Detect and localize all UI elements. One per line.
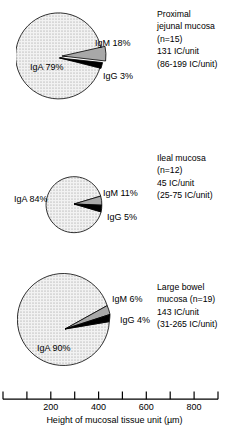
x-axis-title: Height of mucosal tissue unit (µm) [0, 415, 229, 426]
mucosal-immunoglobulin-figure: IgA 79% IgM 18% IgG 3% Proximal jejunal … [0, 0, 229, 433]
pie-chart-large-bowel-mucosa: IgA 90% IgM 6% IgG 4% [17, 272, 119, 374]
x-axis-scale: 200 400 600 800 Height of mucosal tissue… [0, 388, 229, 433]
pie-label-igg-proximal: IgG 3% [103, 71, 133, 81]
caption-line: Proximal [157, 8, 217, 20]
caption-line: 45 IC/unit [157, 177, 213, 189]
x-axis-tick-label-400: 400 [91, 402, 106, 412]
pie-chart-proximal-jejunal-mucosa: IgA 79% IgM 18% IgG 3% [16, 9, 112, 105]
x-axis-tick-label-200: 200 [43, 402, 58, 412]
caption-line: (25-75 IC/unit) [157, 189, 213, 201]
caption-line: mucosa (n=19) [157, 293, 217, 305]
panel-ileal-mucosa: IgA 84% IgM 11% IgG 5% Ileal mucosa (n=1… [0, 130, 229, 255]
x-axis-svg [0, 388, 229, 402]
pie-label-iga-large-bowel: IgA 90% [37, 343, 71, 353]
caption-line: Ileal mucosa [157, 152, 213, 164]
caption-line: (86-199 IC/unit) [157, 58, 217, 70]
pie-label-igg-ileal: IgG 5% [107, 212, 137, 222]
caption-line: 143 IC/unit [157, 306, 217, 318]
caption-proximal-jejunal-mucosa: Proximal jejunal mucosa (n=15) 131 IC/un… [157, 8, 217, 70]
caption-line: jejunal mucosa [157, 20, 217, 32]
x-axis-tick-label-600: 600 [139, 402, 154, 412]
caption-line: 131 IC/unit [157, 45, 217, 57]
caption-line: (31-265 IC/unit) [157, 318, 217, 330]
caption-line: (n=12) [157, 164, 213, 176]
caption-large-bowel-mucosa: Large bowel mucosa (n=19) 143 IC/unit (3… [157, 281, 217, 331]
pie-label-igm-ileal: IgM 11% [103, 188, 138, 198]
x-axis-tick-label-800: 800 [187, 402, 202, 412]
panel-large-bowel-mucosa: IgA 90% IgM 6% IgG 4% Large bowel mucosa… [0, 255, 229, 380]
caption-line: Large bowel [157, 281, 217, 293]
pie-svg-proximal [16, 9, 112, 105]
pie-label-igm-proximal: IgM 18% [95, 38, 131, 48]
pie-label-iga-proximal: IgA 79% [30, 62, 64, 72]
panel-proximal-jejunal-mucosa: IgA 79% IgM 18% IgG 3% Proximal jejunal … [0, 0, 229, 130]
pie-svg-ileal [41, 171, 107, 237]
caption-ileal-mucosa: Ileal mucosa (n=12) 45 IC/unit (25-75 IC… [157, 152, 213, 202]
pie-label-igm-large-bowel: IgM 6% [112, 294, 143, 304]
pie-label-igg-large-bowel: IgG 4% [120, 315, 150, 325]
caption-line: (n=15) [157, 33, 217, 45]
pie-svg-large-bowel [17, 272, 119, 374]
pie-chart-ileal-mucosa: IgA 84% IgM 11% IgG 5% [41, 171, 107, 237]
pie-label-iga-ileal: IgA 84% [14, 194, 48, 204]
